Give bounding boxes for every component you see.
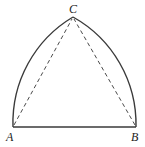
- reuleaux-triangle-diagram: C A B: [0, 0, 145, 147]
- dashed-chord-bc: [74, 19, 135, 125]
- point-label-c: C: [69, 2, 78, 16]
- dashed-chord-ac: [14, 19, 72, 125]
- point-label-a: A: [5, 130, 14, 144]
- point-label-b: B: [131, 130, 139, 144]
